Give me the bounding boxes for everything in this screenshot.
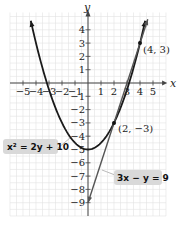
point-label-4-3: (4, 3) — [143, 44, 170, 55]
line-leader-line — [102, 170, 115, 175]
y-tick-label: −3 — [70, 117, 85, 128]
y-tick-label: −6 — [70, 157, 85, 168]
line-equation-label: 3x − y = 9 — [117, 173, 169, 183]
x-tick-label: 4 — [137, 86, 143, 97]
axes — [10, 10, 167, 216]
intersection-point — [138, 41, 142, 45]
y-tick-label: 2 — [79, 51, 85, 62]
x-tick-label: 5 — [150, 86, 156, 97]
y-tick-label: −8 — [70, 184, 85, 195]
y-tick-label: −2 — [70, 104, 85, 115]
y-tick-label: 3 — [79, 38, 85, 49]
x-tick-label: 1 — [98, 86, 104, 97]
y-axis-label: y — [83, 1, 91, 14]
line-arrow-icon — [88, 196, 92, 202]
y-tick-label: −7 — [70, 171, 85, 182]
parabola-equation-label: x² = 2y + 10 — [7, 142, 69, 152]
graph-figure: −5−4−3−2−1123454321−1−2−3−4−5−6−7−8−9 x … — [0, 0, 179, 229]
intersection-point — [112, 121, 116, 125]
x-axis-label: x — [170, 77, 177, 90]
x-axis-arrow-icon — [162, 81, 167, 86]
y-tick-label: −9 — [70, 197, 85, 208]
point-label-2-neg3: (2, −3) — [118, 123, 153, 134]
x-tick-label: 2 — [111, 86, 117, 97]
y-tick-label: 1 — [79, 64, 85, 75]
y-tick-label: −1 — [70, 91, 85, 102]
y-tick-label: 4 — [79, 24, 85, 35]
